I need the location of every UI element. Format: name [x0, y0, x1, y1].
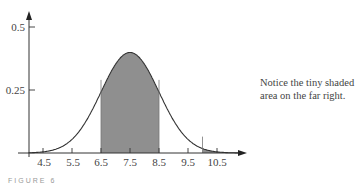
x-tick-label-9.5: 9.5: [181, 156, 195, 168]
x-ticks: [43, 148, 217, 153]
y-tick-label-0.25: 0.25: [6, 84, 26, 96]
x-tick-label-6.5: 6.5: [94, 156, 108, 168]
y-ticks: [29, 27, 35, 90]
x-tick-label-10.5: 10.5: [207, 156, 227, 168]
annotation-note: Notice the tiny shaded area on the far r…: [260, 76, 355, 102]
x-tick-label-8.5: 8.5: [152, 156, 166, 168]
y-axis-arrow-icon: [26, 11, 32, 20]
x-tick-label-5.5: 5.5: [66, 156, 80, 168]
figure-caption: FIGURE 6: [8, 177, 56, 184]
y-tick-label-0.5: 0.5: [11, 21, 25, 33]
x-tick-label-4.5: 4.5: [37, 156, 51, 168]
shaded-region-center: [101, 53, 159, 154]
x-axis-arrow-icon: [238, 150, 247, 156]
x-tick-label-7.5: 7.5: [123, 156, 137, 168]
